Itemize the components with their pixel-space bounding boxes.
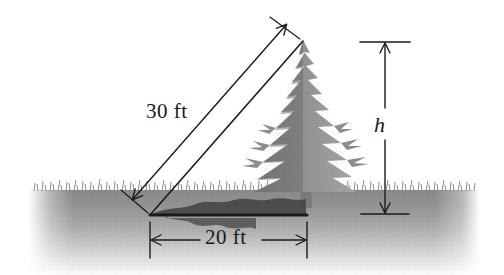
diagram-canvas: 30 ft 20 ft h xyxy=(0,0,504,275)
evergreen-tree xyxy=(242,40,369,208)
label-base-20ft: 20 ft xyxy=(205,227,247,248)
label-height-h: h xyxy=(374,114,385,136)
tree-canopy-texture xyxy=(254,40,356,192)
label-hypotenuse-30ft: 30 ft xyxy=(146,101,188,122)
dimension-30ft-tick-top xyxy=(270,17,300,39)
diagram-svg xyxy=(0,0,504,275)
